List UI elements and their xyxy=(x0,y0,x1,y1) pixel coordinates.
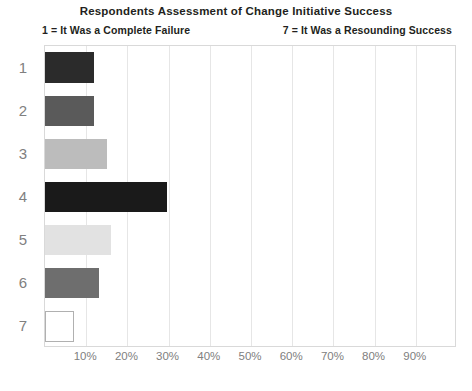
bar-row xyxy=(45,311,455,341)
chart-subtitle-row: 1 = It Was a Complete Failure 7 = It Was… xyxy=(36,24,456,36)
x-tick-60%: 60% xyxy=(280,350,303,362)
bar-2[interactable] xyxy=(45,96,94,126)
x-tick-70%: 70% xyxy=(321,350,344,362)
x-tick-90%: 90% xyxy=(403,350,426,362)
bar-row xyxy=(45,268,455,298)
bar-1[interactable] xyxy=(45,52,94,82)
bar-5[interactable] xyxy=(45,225,111,255)
bar-row xyxy=(45,96,455,126)
subtitle-scale-low: 1 = It Was a Complete Failure xyxy=(36,24,190,36)
y-tick-3: 3 xyxy=(19,144,27,161)
plot-area xyxy=(44,45,456,347)
bar-row xyxy=(45,225,455,255)
bar-4[interactable] xyxy=(45,182,167,212)
y-tick-6: 6 xyxy=(19,274,27,291)
x-tick-20%: 20% xyxy=(115,350,138,362)
bar-row xyxy=(45,182,455,212)
bar-6[interactable] xyxy=(45,268,99,298)
bar-3[interactable] xyxy=(45,139,107,169)
y-tick-1: 1 xyxy=(19,58,27,75)
bars-group xyxy=(45,46,455,346)
y-tick-7: 7 xyxy=(19,317,27,334)
x-tick-50%: 50% xyxy=(238,350,261,362)
bar-7[interactable] xyxy=(45,311,74,341)
bar-row xyxy=(45,139,455,169)
x-tick-40%: 40% xyxy=(197,350,220,362)
y-tick-2: 2 xyxy=(19,101,27,118)
x-tick-30%: 30% xyxy=(156,350,179,362)
x-axis: 10%20%30%40%50%60%70%80%90% xyxy=(44,350,456,374)
bar-row xyxy=(45,52,455,82)
x-tick-10%: 10% xyxy=(74,350,97,362)
y-axis: 1234567 xyxy=(0,45,40,347)
chart-container: Respondents Assessment of Change Initiat… xyxy=(0,0,472,391)
y-tick-4: 4 xyxy=(19,188,27,205)
chart-title: Respondents Assessment of Change Initiat… xyxy=(0,5,472,17)
subtitle-scale-high: 7 = It Was a Resounding Success xyxy=(283,24,456,36)
y-tick-5: 5 xyxy=(19,231,27,248)
x-tick-80%: 80% xyxy=(362,350,385,362)
